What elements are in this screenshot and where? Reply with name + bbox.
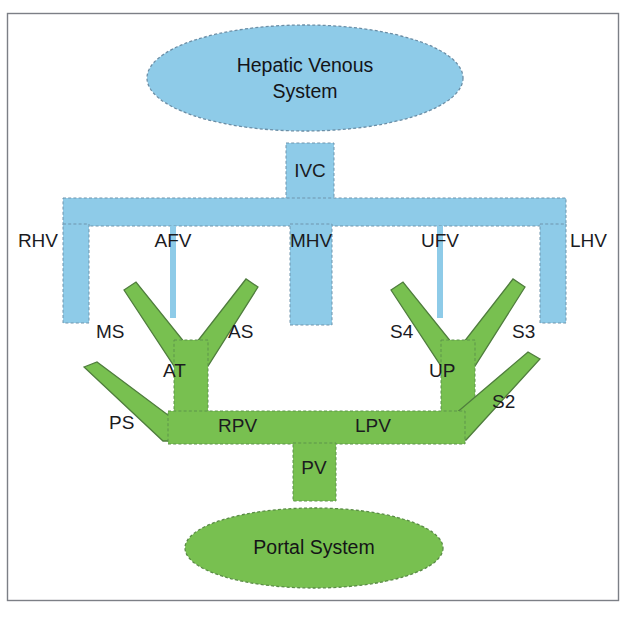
label-s2: S2	[492, 391, 515, 412]
label-pv: PV	[301, 457, 327, 478]
label-ufv: UFV	[421, 230, 459, 251]
diagram-root: Hepatic Venous System Portal System IVC …	[0, 0, 627, 618]
label-s3: S3	[512, 321, 535, 342]
label-hepatic-venous-system-line1: Hepatic Venous	[237, 54, 374, 76]
vessel-rpv-lpv-bar	[168, 411, 465, 444]
label-at: AT	[163, 360, 186, 381]
label-up: UP	[429, 360, 455, 381]
label-rhv: RHV	[18, 230, 58, 251]
label-ivc: IVC	[294, 160, 326, 181]
label-ps: PS	[109, 412, 134, 433]
label-rpv: RPV	[218, 415, 257, 436]
label-portal-system: Portal System	[253, 536, 374, 558]
label-afv: AFV	[155, 230, 192, 251]
hepatic-portal-diagram: Hepatic Venous System Portal System IVC …	[0, 0, 627, 618]
vessel-rhv	[63, 224, 89, 323]
vessel-venous-confluence-bar	[63, 198, 566, 226]
vessel-lhv	[540, 224, 566, 323]
label-hepatic-venous-system-line2: System	[272, 80, 337, 102]
label-s4: S4	[390, 321, 414, 342]
label-mhv: MHV	[290, 230, 333, 251]
label-ms: MS	[96, 321, 125, 342]
label-lpv: LPV	[355, 415, 391, 436]
label-as: AS	[228, 321, 253, 342]
label-lhv: LHV	[570, 230, 607, 251]
node-hepatic-venous-system	[147, 25, 463, 131]
